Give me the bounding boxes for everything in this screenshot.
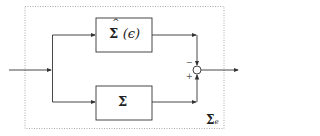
top-block-label: Σ ^ (ϵ) <box>109 26 140 41</box>
minus-sign: − <box>186 58 193 67</box>
hat-accent: ^ <box>112 17 120 27</box>
bottom-block-label: Σ <box>118 94 127 109</box>
outer-system-label: Σe <box>206 113 219 127</box>
summing-junction <box>193 66 201 74</box>
plus-sign: + <box>186 72 193 81</box>
